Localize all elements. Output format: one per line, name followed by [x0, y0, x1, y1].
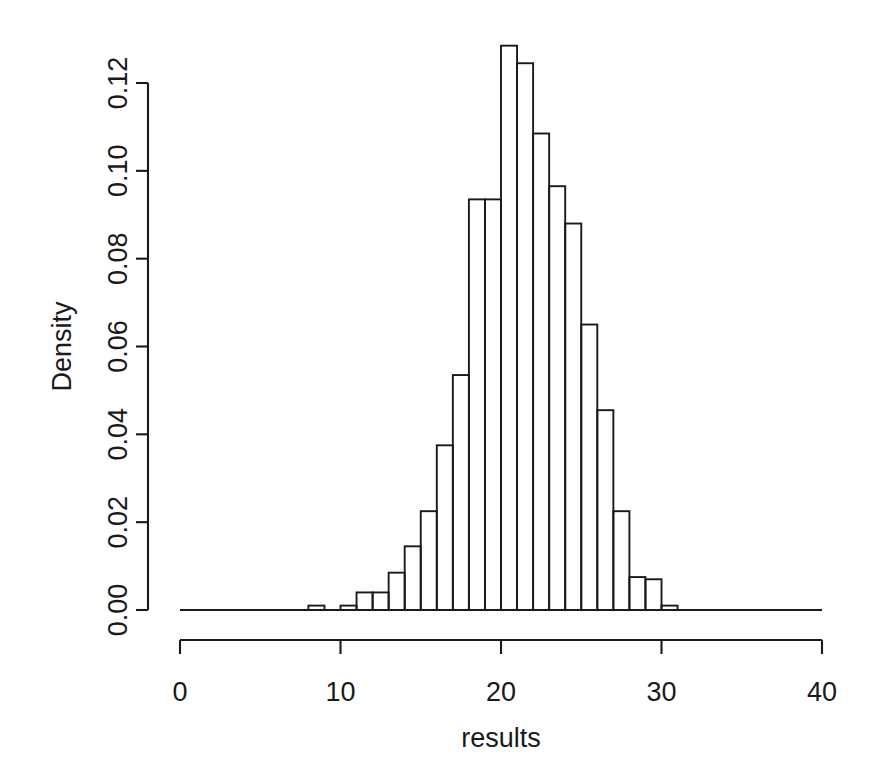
- y-tick-label: 0.00: [103, 584, 133, 637]
- x-tick-label: 30: [646, 677, 676, 707]
- y-tick-label: 0.04: [103, 408, 133, 461]
- y-tick-label: 0.02: [103, 496, 133, 549]
- x-tick-label: 40: [807, 677, 837, 707]
- y-tick-label: 0.12: [103, 57, 133, 110]
- x-tick-label: 0: [172, 677, 187, 707]
- y-tick-label: 0.06: [103, 320, 133, 373]
- x-tick-label: 20: [486, 677, 516, 707]
- x-axis-title: results: [461, 723, 541, 753]
- y-axis-title: Density: [47, 301, 77, 392]
- y-tick-label: 0.10: [103, 145, 133, 198]
- y-tick-label: 0.08: [103, 232, 133, 285]
- chart-canvas: 0.000.020.040.060.080.100.12 010203040 D…: [0, 0, 875, 782]
- plot-background: [0, 0, 875, 782]
- x-tick-label: 10: [325, 677, 355, 707]
- histogram-plot: 0.000.020.040.060.080.100.12 010203040 D…: [0, 0, 875, 782]
